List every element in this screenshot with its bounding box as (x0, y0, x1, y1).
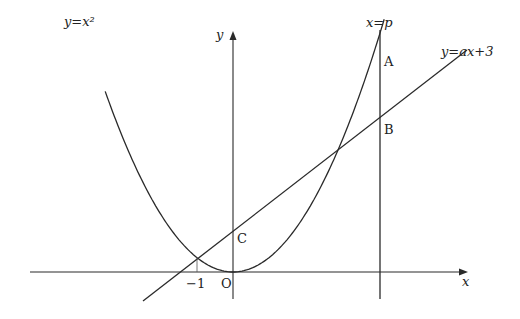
y-axis-arrow-icon (230, 31, 237, 40)
line-y-ax-plus-3 (143, 50, 467, 301)
origin-label: O (221, 276, 232, 291)
y-axis (230, 31, 237, 299)
y-axis-label: y (215, 27, 224, 42)
point-c-label: C (237, 231, 247, 246)
vertical-line-label: x=p (366, 15, 393, 30)
tick-minus-one-label: −1 (186, 276, 205, 291)
line-label: y=ax+3 (440, 44, 493, 59)
x-axis-label: x (462, 274, 470, 289)
point-a-label: A (383, 54, 394, 69)
function-graph-diagram: y=x² x=p y=ax+3 y x A B C O −1 (0, 0, 520, 319)
point-b-label: B (384, 122, 394, 137)
parabola-label: y=x² (63, 14, 95, 29)
